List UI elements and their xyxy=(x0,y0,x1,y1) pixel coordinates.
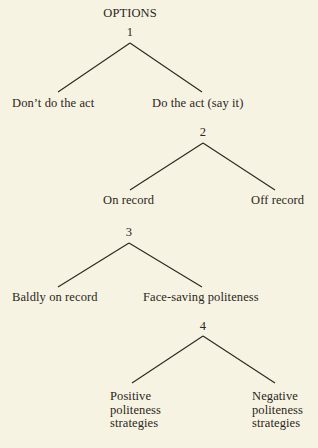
node-4-number: 4 xyxy=(200,319,206,333)
tree-branches xyxy=(0,0,318,448)
node-3-left-label: Baldly on record xyxy=(12,290,98,304)
node-1-left-label: Don’t do the act xyxy=(12,96,94,110)
node-2-left-label: On record xyxy=(103,193,154,207)
branch-2-right xyxy=(203,143,275,190)
diagram-title: OPTIONS xyxy=(103,6,156,20)
branch-3-left xyxy=(58,243,129,287)
node-4-right-label: Negative politeness strategies xyxy=(252,390,303,431)
branch-1-right xyxy=(130,43,202,92)
branch-3-right xyxy=(129,243,202,287)
node-2-right-label: Off record xyxy=(251,193,304,207)
branch-4-right xyxy=(203,336,275,383)
node-1-number: 1 xyxy=(127,25,133,39)
node-1-right-label: Do the act (say it) xyxy=(152,96,243,110)
branch-1-left xyxy=(58,43,130,92)
branch-2-left xyxy=(130,143,203,190)
node-3-number: 3 xyxy=(126,225,132,239)
node-3-right-label: Face-saving politeness xyxy=(143,290,259,304)
node-2-number: 2 xyxy=(200,125,206,139)
branch-4-left xyxy=(132,336,203,383)
node-4-left-label: Positive politeness strategies xyxy=(110,390,161,431)
politeness-strategies-tree: OPTIONS 1 Don’t do the act Do the act (s… xyxy=(0,0,318,448)
